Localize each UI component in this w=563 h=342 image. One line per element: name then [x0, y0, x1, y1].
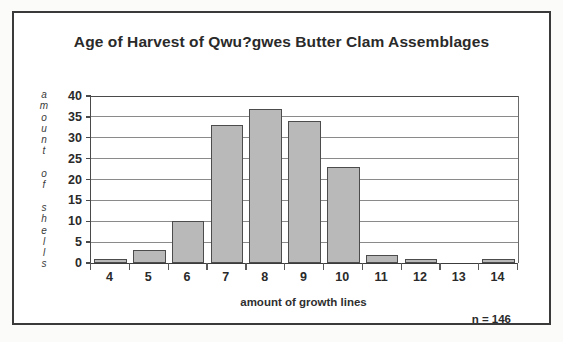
x-tickmark-10	[478, 263, 479, 270]
bar-slot-10	[324, 96, 363, 263]
figure-page: Age of Harvest of Qwu?gwes Butter Clam A…	[0, 0, 563, 342]
y-tickmark-5	[86, 241, 91, 242]
y-tick-label-30: 30	[56, 131, 82, 145]
y-tickmark-25	[86, 158, 91, 159]
bar-slot-11	[363, 96, 402, 263]
x-tick-label-14: 14	[478, 270, 517, 288]
y-tick-label-25: 25	[56, 152, 82, 166]
x-tickmark-1	[129, 263, 130, 270]
x-tick-label-5: 5	[129, 270, 168, 288]
x-axis-title: amount of growth lines	[90, 296, 517, 308]
bar-slot-9	[285, 96, 324, 263]
y-tickmark-35	[86, 116, 91, 117]
x-tickmark-2	[168, 263, 169, 270]
x-tickmark-4	[245, 263, 246, 270]
y-axis-tick-labels: 0510152025303540	[56, 88, 82, 270]
bar-8[interactable]	[249, 109, 282, 263]
y-tick-label-5: 5	[56, 235, 82, 249]
bar-slot-8	[246, 96, 285, 263]
bar-5[interactable]	[133, 250, 166, 263]
y-tickmark-40	[86, 95, 91, 96]
y-tick-label-20: 20	[56, 173, 82, 187]
bar-10[interactable]	[327, 167, 360, 263]
bar-slot-12	[402, 96, 441, 263]
bar-slot-14	[479, 96, 518, 263]
y-tick-label-10: 10	[56, 214, 82, 228]
x-tickmark-6	[323, 263, 324, 270]
x-tick-label-7: 7	[206, 270, 245, 288]
y-tick-label-15: 15	[56, 193, 82, 207]
bar-slot-7	[207, 96, 246, 263]
x-tickmark-7	[362, 263, 363, 270]
y-tick-label-0: 0	[56, 256, 82, 270]
plot-area	[90, 96, 519, 263]
bar-7[interactable]	[211, 125, 244, 263]
x-tickmark-8	[401, 263, 402, 270]
bar-9[interactable]	[288, 121, 321, 263]
figure-frame: Age of Harvest of Qwu?gwes Butter Clam A…	[12, 11, 551, 325]
bar-6[interactable]	[172, 221, 205, 263]
y-axis-title: a m o u n t o f s h e l l s	[36, 89, 52, 270]
x-tickmark-9	[439, 263, 440, 270]
bar-11[interactable]	[366, 255, 399, 263]
x-tick-label-13: 13	[439, 270, 478, 288]
y-tickmark-10	[86, 221, 91, 222]
bar-series	[91, 96, 518, 263]
x-tickmark-0	[90, 263, 91, 270]
x-tickmark-11	[517, 263, 518, 270]
x-tick-label-6: 6	[168, 270, 207, 288]
y-tick-label-40: 40	[56, 89, 82, 103]
x-tick-label-11: 11	[362, 270, 401, 288]
x-tick-label-10: 10	[323, 270, 362, 288]
x-tick-label-12: 12	[401, 270, 440, 288]
bar-slot-5	[130, 96, 169, 263]
y-tickmark-20	[86, 179, 91, 180]
bar-slot-6	[169, 96, 208, 263]
y-tickmark-30	[86, 137, 91, 138]
x-axis-tickmarks	[90, 263, 517, 270]
x-tickmark-5	[284, 263, 285, 270]
x-tick-label-8: 8	[245, 270, 284, 288]
y-tickmark-15	[86, 200, 91, 201]
x-tickmark-3	[206, 263, 207, 270]
bar-slot-13	[440, 96, 479, 263]
x-axis-tick-labels: 4567891011121314	[90, 270, 517, 288]
sample-size-annotation: n = 146	[472, 313, 511, 325]
x-tick-label-9: 9	[284, 270, 323, 288]
bar-slot-4	[91, 96, 130, 263]
chart-title: Age of Harvest of Qwu?gwes Butter Clam A…	[14, 33, 549, 51]
y-tick-label-35: 35	[56, 110, 82, 124]
x-tick-label-4: 4	[90, 270, 129, 288]
